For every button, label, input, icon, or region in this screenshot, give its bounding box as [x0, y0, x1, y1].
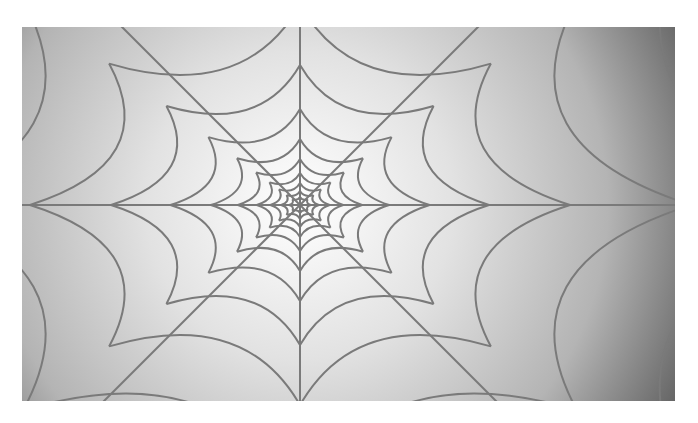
gradient-background	[22, 27, 675, 401]
spider-web-illustration	[22, 27, 675, 401]
spider-web-image	[22, 27, 675, 401]
